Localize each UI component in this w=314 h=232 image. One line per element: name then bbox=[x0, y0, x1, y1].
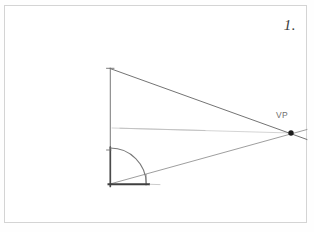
plate-number-label: 1. bbox=[284, 18, 296, 33]
drawing-sheet: 1. VP bbox=[0, 0, 314, 232]
lower-orthogonal-line bbox=[110, 130, 307, 185]
vanishing-point-dot bbox=[288, 130, 293, 135]
perspective-diagram bbox=[0, 0, 314, 232]
horizon-line-highlight bbox=[120, 128, 205, 130]
vanishing-point-label: VP bbox=[276, 111, 288, 120]
